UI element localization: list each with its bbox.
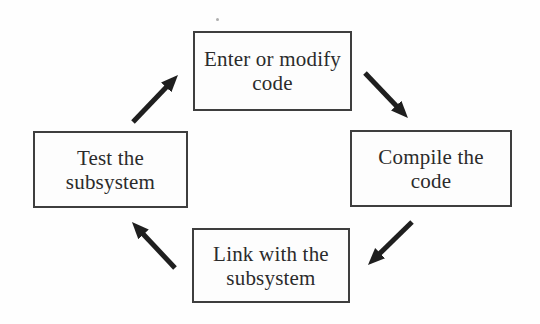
arrow-link-to-test [142,233,175,268]
node-test-the-subsystem: Test the subsystem [33,131,188,208]
node-label-line: subsystem [226,266,315,290]
node-label-line: Test the [77,146,144,170]
node-enter-or-modify-code: Enter or modify code [193,31,352,111]
node-label-line: code [252,71,292,95]
cycle-diagram: Enter or modify code Compile the code Li… [0,0,540,324]
arrow-enter-to-compile [365,73,397,107]
scan-speck-artifact [216,18,219,21]
node-link-with-the-subsystem: Link with the subsystem [192,228,350,303]
node-compile-the-code: Compile the code [350,130,512,207]
arrow-test-to-enter [133,86,167,122]
node-label-line: subsystem [66,170,155,194]
node-label-line: Link with the [213,242,329,266]
node-label-line: Enter or modify [204,47,341,71]
node-label-line: code [411,169,451,193]
arrow-compile-to-link [379,222,412,254]
node-label-line: Compile the [378,145,483,169]
